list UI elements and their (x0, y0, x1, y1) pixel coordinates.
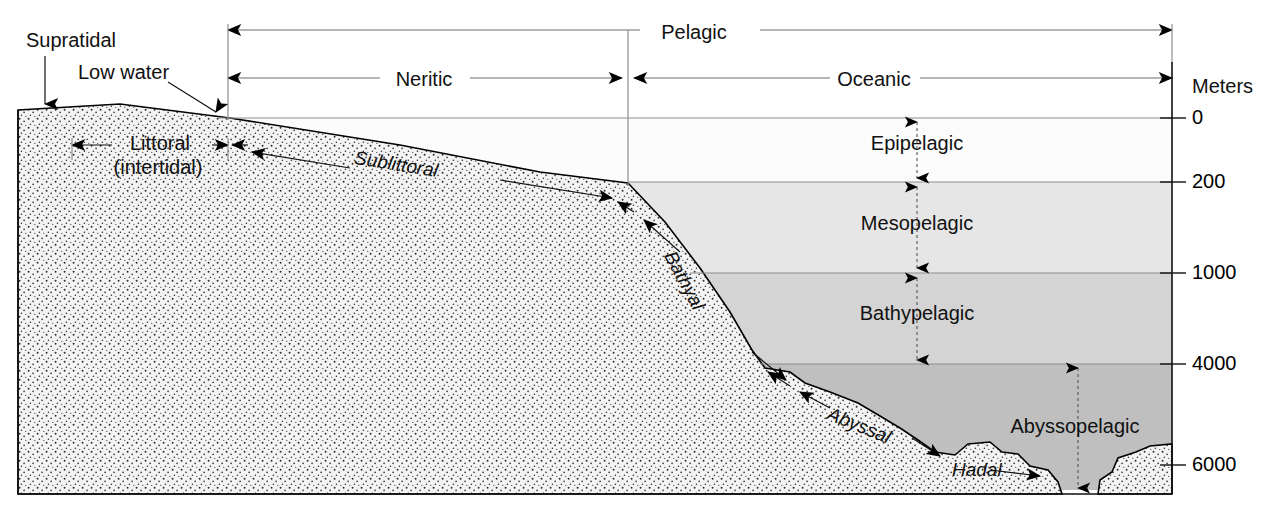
label-oceanic: Oceanic (837, 69, 910, 90)
depth-tick-1000: 1000 (1192, 261, 1237, 284)
label-mesopelagic: Mesopelagic (861, 213, 973, 234)
depth-tick-4000: 4000 (1192, 352, 1237, 375)
ocean-zonation-diagram: Supratidal Low water Littoral (intertida… (0, 0, 1280, 517)
axis-title-meters: Meters (1192, 76, 1253, 97)
depth-tick-0: 0 (1192, 106, 1203, 129)
label-intertidal: (intertidal) (114, 157, 203, 178)
label-bathypelagic: Bathypelagic (860, 303, 975, 324)
depth-tick-6000: 6000 (1192, 453, 1237, 476)
label-low-water: Low water (78, 62, 169, 83)
label-supratidal: Supratidal (26, 30, 116, 51)
label-abyssopelagic: Abyssopelagic (1011, 416, 1140, 437)
label-neritic: Neritic (396, 69, 453, 90)
depth-tick-200: 200 (1192, 170, 1225, 193)
label-hadal: Hadal (952, 460, 1002, 480)
diagram-graphics (0, 0, 1280, 517)
label-littoral: Littoral (130, 133, 190, 154)
label-pelagic: Pelagic (661, 22, 727, 43)
label-epipelagic: Epipelagic (871, 133, 963, 154)
